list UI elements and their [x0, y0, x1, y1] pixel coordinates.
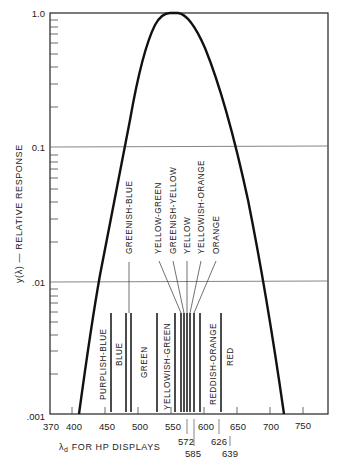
x-tick-750: 750: [295, 420, 311, 431]
x-tick-650: 650: [230, 421, 246, 432]
gridline-0.1: [50, 146, 328, 147]
label-reddish-orange: REDDISH-ORANGE: [209, 323, 218, 405]
x-tick-labels: 370 400 450 500 550 600 650 700 750: [43, 420, 311, 432]
x-tick-550: 550: [165, 421, 181, 432]
label-blue: BLUE: [115, 343, 124, 366]
plot-frame: [50, 13, 328, 414]
boundary-626: 626: [211, 436, 227, 447]
chart-svg: 1.0 0.1 .01 .001 370 400 450 500 550 600…: [0, 0, 337, 472]
boundary-639: 639: [222, 448, 238, 459]
y-minor-ticks: [50, 20, 58, 374]
y-tick-0.01: .01: [32, 277, 45, 288]
leader-lines: [129, 261, 216, 313]
y-axis-title: y(λ) — RELATIVE RESPONSE: [14, 144, 24, 283]
y-tick-0.1: 0.1: [32, 142, 45, 153]
label-yellow-green: YELLOW-GREEN: [154, 182, 163, 254]
x-axis-title: λd FOR HP DISPLAYS: [59, 442, 160, 453]
label-red: RED: [226, 347, 235, 366]
x-tick-450: 450: [99, 421, 115, 432]
label-yellowish-orange: YELLOWISH-ORANGE: [197, 160, 206, 254]
x-tick-700: 700: [263, 421, 279, 432]
y-tick-1.0: 1.0: [32, 8, 45, 19]
x-tick-370: 370: [43, 421, 59, 432]
label-green: GREEN: [140, 346, 149, 378]
boundary-572: 572: [178, 436, 194, 447]
label-yellow: YELLOW: [183, 217, 192, 254]
x-tick-500: 500: [132, 421, 148, 432]
x-tick-600: 600: [198, 421, 214, 432]
label-greenish-blue: GREENISH-BLUE: [125, 181, 134, 254]
label-orange: ORANGE: [212, 215, 221, 254]
label-yellowish-green: YELLOWISH-GREEN: [163, 323, 172, 410]
x-tick-400: 400: [66, 421, 82, 432]
label-purplish-blue: PURPLISH-BLUE: [99, 328, 108, 400]
boundary-585: 585: [185, 448, 201, 459]
gridline-0.01: [50, 281, 328, 282]
label-greenish-yellow: GREENISH-YELLOW: [169, 167, 178, 254]
